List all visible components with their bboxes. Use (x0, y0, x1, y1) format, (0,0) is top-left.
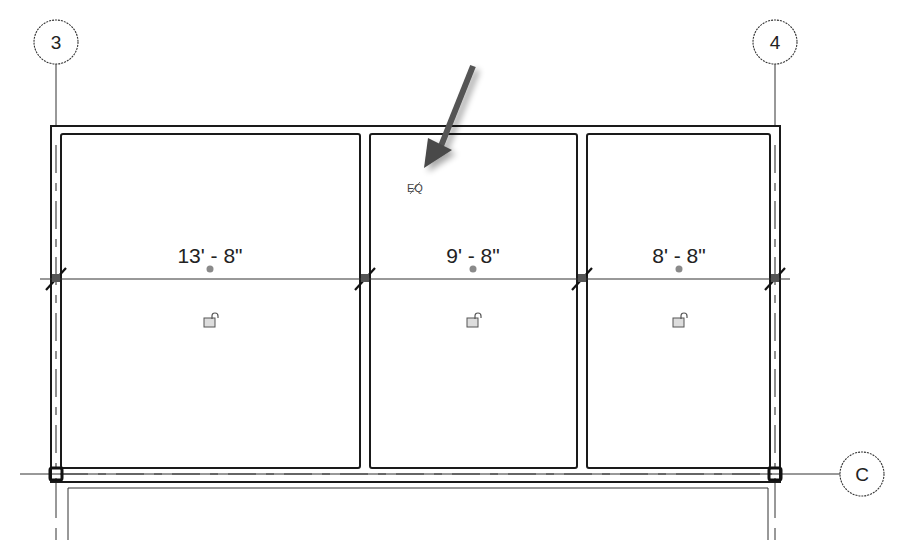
dimension-value-3[interactable]: 8' - 8" (652, 244, 705, 267)
grid-label-4: 4 (770, 32, 781, 53)
room-2[interactable] (370, 134, 577, 468)
grid-label-3: 3 (51, 32, 62, 53)
grid-label-c: C (855, 464, 869, 485)
exterior-wall-outer[interactable] (51, 126, 780, 482)
lock-icon[interactable] (204, 313, 218, 327)
dimension-drag-dot[interactable] (207, 266, 214, 273)
dimension-value-1[interactable]: 13' - 8" (177, 244, 242, 267)
room-3[interactable] (587, 134, 770, 468)
floor-plan-canvas: 3 4 C (0, 0, 908, 555)
room-1[interactable] (61, 134, 360, 468)
dimension-value-2[interactable]: 9' - 8" (446, 244, 499, 267)
dimension-drag-dot[interactable] (470, 266, 477, 273)
lock-icon[interactable] (467, 313, 481, 327)
eq-toggle[interactable]: EQ (407, 182, 423, 194)
annotation-arrow-icon (424, 66, 473, 168)
dimension-drag-dot[interactable] (676, 266, 683, 273)
dimension-string[interactable]: 13' - 8" 9' - 8" 8' - 8" (40, 244, 790, 327)
lock-icon[interactable] (673, 313, 687, 327)
